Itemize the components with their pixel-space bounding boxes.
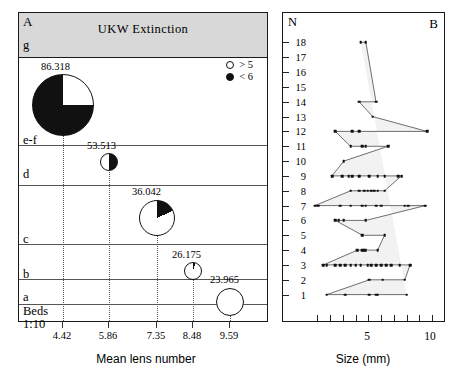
panel-b-envelope-polyline <box>315 42 427 294</box>
pie-value-23-965: 23.965 <box>210 274 239 285</box>
panel-b-ylabel-11: 11 <box>290 141 306 152</box>
panel-b-data-point <box>334 264 337 267</box>
panel-b-ytick-5 <box>283 235 289 236</box>
xtick-8-48 <box>192 322 193 328</box>
panel-b-data-point <box>368 175 371 178</box>
leader-5-86 <box>109 161 110 321</box>
panel-b-ylabel-16: 16 <box>290 67 306 78</box>
panel-b-data-point <box>351 175 354 178</box>
panel-b-ytick-2 <box>283 280 289 281</box>
panel-b-data-point <box>400 175 403 178</box>
bed-label-a: a <box>23 291 29 304</box>
panel-b-ytick-17 <box>283 57 289 58</box>
panel-b: N B 123456789101112131415161718 <box>282 12 445 322</box>
panel-b-x-axis-title: Size (mm) <box>336 352 391 366</box>
panel-b-data-point <box>370 189 373 192</box>
panel-b-ylabel-8: 8 <box>290 185 306 196</box>
panel-b-ytick-13 <box>283 117 289 118</box>
legend-row-gt5: > 5 <box>226 59 253 71</box>
panel-b-ytick-15 <box>283 87 289 88</box>
panel-b-data-point <box>366 189 369 192</box>
panel-b-data-point <box>385 264 388 267</box>
panel-b-data-point <box>349 189 352 192</box>
panel-b-ylabel-9: 9 <box>290 170 306 181</box>
xlabel-5-86: 5.86 <box>99 330 117 341</box>
panel-b-xtick <box>368 315 369 321</box>
panel-b-xtick <box>394 315 395 321</box>
panel-b-data-point <box>349 204 352 207</box>
panel-b-data-point <box>339 204 342 207</box>
panel-b-xtick <box>317 315 318 321</box>
xtick-5-86 <box>108 322 109 328</box>
pie-value-36-042: 36.042 <box>132 186 161 197</box>
xlabel-7-35: 7.35 <box>147 330 165 341</box>
panel-b-data-point <box>334 219 337 222</box>
panel-b-data-point <box>361 204 364 207</box>
panel-b-data-point <box>358 100 361 103</box>
panel-b-data-point <box>334 130 337 133</box>
panel-b-data-point <box>342 219 345 222</box>
panel-b-ylabel-14: 14 <box>290 96 306 107</box>
panel-b-data-point <box>337 219 340 222</box>
panel-b-data-point <box>326 264 329 267</box>
panel-b-ytick-18 <box>283 42 289 43</box>
bed-label-b: b <box>23 268 29 281</box>
panel-b-ytick-3 <box>283 265 289 266</box>
panel-b-data-point <box>376 175 379 178</box>
panel-b-data-point <box>426 130 429 133</box>
panel-b-ytick-7 <box>283 206 289 207</box>
panel-b-data-point <box>358 130 361 133</box>
panel-a-legend: > 5 < 6 <box>226 59 253 83</box>
open-circle-icon <box>226 61 234 69</box>
panel-b-data-point <box>371 115 374 118</box>
panel-b-data-point <box>361 234 364 237</box>
panel-b-data-point <box>375 204 378 207</box>
panel-b-data-point <box>351 130 354 133</box>
panel-b-data-point <box>356 249 359 252</box>
panel-b-data-point <box>359 264 362 267</box>
panel-b-data-point <box>373 189 376 192</box>
panel-b-plot-area: N B 123456789101112131415161718 <box>283 13 444 321</box>
panel-b-data-point <box>404 278 407 281</box>
panel-a-label: A <box>23 14 32 30</box>
panel-b-ytick-10 <box>283 161 289 162</box>
panel-b-data-point <box>375 264 378 267</box>
panel-b-xtick <box>343 315 344 321</box>
panel-b-ylabel-10: 10 <box>290 156 306 167</box>
pie-86-318 <box>32 74 94 136</box>
legend-label-lt6: < 6 <box>239 71 253 83</box>
panel-b-ylabel-3: 3 <box>290 259 306 270</box>
panel-a-x-axis-title: Mean lens number <box>96 352 195 366</box>
panel-b-data-point <box>365 145 368 148</box>
pie-value-86-318: 86.318 <box>41 61 70 72</box>
filled-circle-icon <box>226 73 234 81</box>
panel-b-data-point <box>363 189 366 192</box>
panel-a-header-title: UKW Extinction <box>19 22 267 37</box>
panel-a-plot-area: UKW Extinction A g > 5 < 6 e-f <box>19 13 267 321</box>
panel-b-series-svg <box>283 13 444 320</box>
xlabel-9-59: 9.59 <box>220 330 238 341</box>
panel-b-data-point <box>387 145 390 148</box>
panel-b-data-point <box>322 264 325 267</box>
xlabel-8-48: 8.48 <box>183 330 201 341</box>
beds-scale-line2: 1:10 <box>23 318 45 331</box>
panel-b-data-point <box>359 41 362 44</box>
xtick-7-35 <box>156 322 157 328</box>
panel-b-data-point <box>348 175 351 178</box>
bed-divider-c <box>19 244 267 245</box>
panel-b-xlabel-10: 10 <box>424 330 436 342</box>
panel-b-data-point <box>358 189 361 192</box>
panel-b-data-point <box>383 175 386 178</box>
panel-b-ylabel-1: 1 <box>290 289 306 300</box>
bed-label-c: c <box>23 233 29 246</box>
panel-b-data-point <box>349 145 352 148</box>
panel-b-xtick <box>330 315 331 321</box>
panel-b-data-point <box>366 264 369 267</box>
panel-b-data-point <box>370 264 373 267</box>
panel-b-data-point <box>380 264 383 267</box>
panel-b-data-point <box>376 293 379 296</box>
panel-b-data-point <box>331 175 334 178</box>
panel-b-data-point <box>365 41 368 44</box>
panel-b-data-point <box>358 175 361 178</box>
panel-b-data-point <box>317 204 320 207</box>
